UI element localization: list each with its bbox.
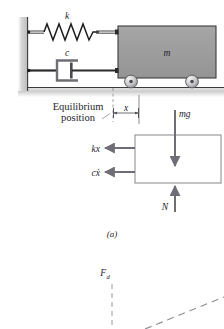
figure-canvas: k c m (0, 0, 224, 329)
damping-coefficient-label: c (65, 48, 70, 58)
spring-element (28, 24, 130, 40)
damping-force-label: cẋ (92, 168, 101, 178)
mass-label: m (164, 48, 171, 58)
vibration-figure: k c m (0, 0, 224, 329)
equilibrium-label-line1: Equilibrium (53, 101, 104, 112)
normal-force-label: N (161, 202, 169, 212)
displacement-label: x (123, 103, 129, 113)
dynamic-force-label: Fd (99, 268, 110, 280)
ground-surface (18, 87, 224, 97)
dynamic-force-symbol: F (99, 268, 106, 278)
spring-stiffness-label: k (65, 11, 70, 21)
free-body-box (135, 135, 221, 183)
lower-plot-axis (112, 284, 224, 329)
spring-force-label: kx (92, 144, 101, 154)
support-wall (18, 17, 28, 91)
weight-force-label: mg (179, 109, 191, 119)
equilibrium-label-line2: position (61, 112, 96, 123)
part-label: (a) (107, 229, 118, 239)
dynamic-force-subscript: d (107, 273, 111, 280)
